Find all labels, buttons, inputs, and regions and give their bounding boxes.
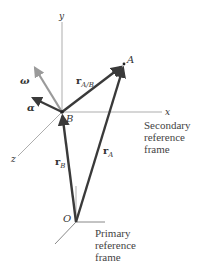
point-B-label: B (65, 113, 73, 124)
primary-diagonal-axis (55, 222, 76, 244)
z-axis-label: z (10, 154, 16, 164)
r-A-B-label: rA/B (76, 75, 94, 89)
svg-text:frame: frame (144, 143, 170, 155)
r-B-label: rB (55, 156, 65, 170)
omega-label: ω (20, 75, 30, 86)
svg-text:frame: frame (95, 251, 121, 263)
r-A-vector (76, 68, 123, 222)
relative-motion-diagram: y x z ω α A B O rA/B rA rB Secondary ref… (0, 0, 197, 273)
secondary-frame-caption: Secondary reference frame (144, 119, 191, 155)
primary-frame-caption: Primary reference frame (95, 227, 136, 263)
point-O-label: O (63, 213, 71, 224)
r-A-label: rA (103, 145, 113, 159)
z-axis-line (18, 112, 62, 156)
point-B-dot (60, 110, 64, 114)
alpha-label: α (27, 102, 35, 113)
point-A-label: A (126, 54, 134, 65)
svg-text:Primary: Primary (95, 227, 131, 239)
svg-text:reference: reference (95, 239, 136, 251)
x-axis-label: x (165, 107, 170, 117)
svg-text:reference: reference (144, 131, 185, 143)
point-A-dot (123, 63, 126, 66)
svg-text:Secondary: Secondary (144, 119, 191, 131)
y-axis-label: y (58, 11, 65, 21)
